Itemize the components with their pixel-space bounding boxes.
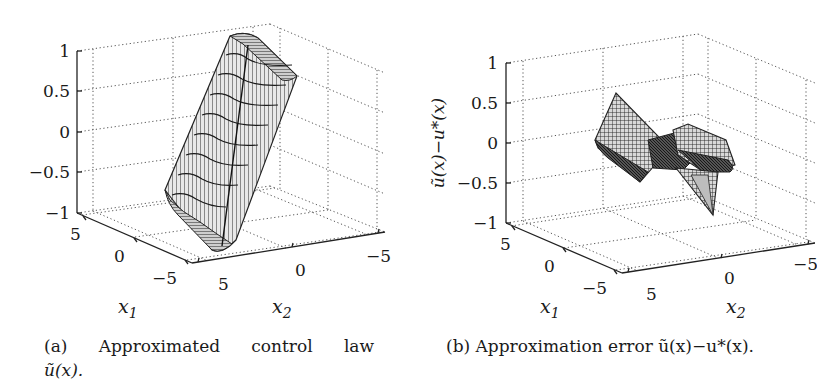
z-axis-a	[77, 51, 82, 213]
caption-a-word: law	[344, 334, 374, 358]
caption-a-word: control	[251, 334, 312, 358]
z-tick-label: 0.5	[471, 93, 498, 113]
x2-tick-label: 0	[295, 260, 306, 280]
z-axis-b	[506, 63, 511, 223]
x1-axis-a	[77, 213, 192, 264]
x1-tick-label: −5	[582, 278, 607, 298]
x2-tick-label: 5	[646, 284, 657, 304]
z-tick-label: 0	[487, 133, 498, 153]
x1-axis-b	[506, 223, 622, 274]
z-tick-label: 0.5	[43, 81, 70, 101]
x2-tick-label: −5	[793, 254, 817, 274]
z-tick-label: −1	[45, 203, 70, 223]
caption-a-line2: ũ(x).	[44, 358, 374, 382]
subplot-a: 1 0.5 0 −0.5 −1 5 0 −5 5 0 −5 x1 x2	[0, 0, 408, 390]
z-tick-label: −0.5	[457, 173, 498, 193]
z-tick-label: 1	[59, 41, 70, 61]
x1-tick-label: 5	[500, 234, 511, 254]
x2-tick-label: 5	[218, 274, 229, 294]
x2-axis-label: x2	[272, 295, 292, 321]
x1-tick-label: 0	[544, 256, 555, 276]
subplot-b: 1 0.5 0 −0.5 −1 5 0 −5 5 0 −5 x1 x2 ũ(x)…	[408, 0, 817, 390]
caption-a-label: (a)	[44, 334, 67, 358]
caption-a: (a) Approximated control law ũ(x).	[44, 334, 374, 382]
x1-tick-label: 0	[114, 246, 125, 266]
plot-a-canvas: 1 0.5 0 −0.5 −1 5 0 −5 5 0 −5 x1 x2	[0, 0, 408, 390]
surface-mesh-a	[165, 33, 297, 251]
z-tick-label: −0.5	[29, 162, 70, 182]
x1-axis-label: x1	[118, 295, 138, 321]
x2-tick-label: 0	[724, 268, 735, 288]
z-tick-label: 0	[59, 122, 70, 142]
x2-axis-label: x2	[726, 295, 746, 321]
plot-b-canvas: 1 0.5 0 −0.5 −1 5 0 −5 5 0 −5 x1 x2 ũ(x)…	[408, 0, 817, 390]
x1-axis-label: x1	[540, 295, 560, 321]
x1-tick-label: 5	[70, 224, 81, 244]
z-tick-label: 1	[487, 53, 498, 73]
x1-tick-label: −5	[152, 268, 177, 288]
z-axis-label: ũ(x)−u*(x)	[428, 98, 448, 188]
caption-a-word: Approximated	[99, 334, 220, 358]
surface-mesh-b	[595, 93, 735, 215]
x2-tick-label: −5	[366, 246, 391, 266]
z-tick-label: −1	[473, 213, 498, 233]
caption-b: (b) Approximation error ũ(x)−u*(x).	[446, 334, 816, 358]
